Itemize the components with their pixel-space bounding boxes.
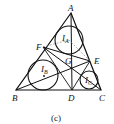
figure-caption: (c) [51,113,61,123]
label-f: F [35,42,42,52]
label-d: D [67,93,75,103]
label-e: E [93,56,100,66]
label-ia: IA [61,33,69,44]
label-a: A [67,3,74,13]
label-c: C [99,93,106,103]
altitude-ad [71,13,72,90]
label-ic: IC [84,75,93,86]
triangle-figure: A B C D E F G IA IB IC (c) [0,0,114,124]
label-g: G [65,56,72,66]
label-ib: IB [40,64,48,75]
center-dot-ib [43,75,45,77]
label-b: B [12,93,18,103]
